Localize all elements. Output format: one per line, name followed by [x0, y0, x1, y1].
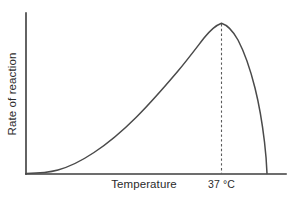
y-axis-label: Rate of reaction	[6, 53, 18, 136]
enzyme-rate-temperature-chart: Temperature 37 °C Rate of reaction	[0, 0, 303, 201]
x-axis-label: Temperature	[111, 178, 177, 190]
chart-canvas: Temperature 37 °C Rate of reaction	[0, 0, 303, 201]
reaction-rate-curve	[27, 23, 268, 173]
optimum-temperature-label: 37 °C	[208, 178, 235, 190]
